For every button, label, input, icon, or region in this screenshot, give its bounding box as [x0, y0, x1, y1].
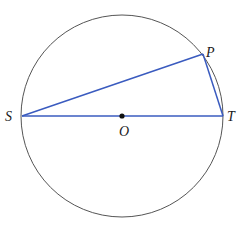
- label-O: O: [119, 124, 129, 139]
- chord-PT: [203, 54, 223, 116]
- label-T: T: [227, 109, 236, 124]
- geometry-diagram: S T P O: [0, 0, 248, 227]
- chord-SP: [22, 54, 203, 116]
- center-dot: [119, 113, 124, 118]
- label-P: P: [205, 45, 215, 60]
- label-S: S: [5, 109, 12, 124]
